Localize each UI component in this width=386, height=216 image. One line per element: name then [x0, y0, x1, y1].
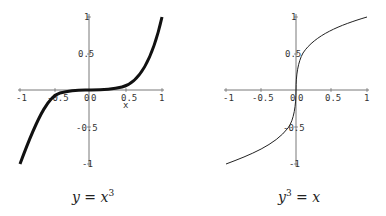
left-x-axis-name: x: [123, 100, 129, 110]
left-ytick-label: -0.5: [76, 123, 98, 133]
right-ytick-label: -1: [289, 159, 300, 169]
right-origin-label: 0: [290, 93, 295, 103]
left-caption: y = x3: [72, 188, 114, 205]
right-origin-label: 0: [298, 93, 303, 103]
left-xtick-label: 1: [159, 93, 164, 103]
left-origin-label: 0: [91, 93, 96, 103]
plots-canvas: -1 -0.5 0 0 0.5 1 x 1 0.5 -0.5 -1 -1 -0.…: [0, 0, 386, 216]
right-xtick-label: -0.5: [252, 93, 274, 103]
left-xtick-label: -1: [16, 93, 27, 103]
left-ytick-label: -1: [82, 159, 93, 169]
left-ytick-label: 1: [84, 12, 89, 22]
right-ytick-label: 1: [291, 12, 296, 22]
right-xtick-label: 1: [364, 93, 369, 103]
right-caption: y3 = x: [278, 188, 320, 205]
right-ytick-label: 0.5: [285, 49, 301, 59]
left-plot: -1 -0.5 0 0 0.5 1 x 1 0.5 -0.5 -1: [16, 12, 164, 169]
right-ytick-label: -0.5: [283, 123, 305, 133]
left-origin-label: 0: [84, 93, 89, 103]
right-xtick-label: 0.5: [325, 93, 341, 103]
right-plot: -1 -0.5 0 0 0.5 1 1 0.5 -0.5 -1: [223, 12, 369, 169]
left-curve-cubic: [20, 17, 162, 164]
right-xtick-label: -1: [223, 93, 234, 103]
left-ytick-label: 0.5: [78, 49, 94, 59]
right-curve-cuberoot: [226, 17, 367, 164]
